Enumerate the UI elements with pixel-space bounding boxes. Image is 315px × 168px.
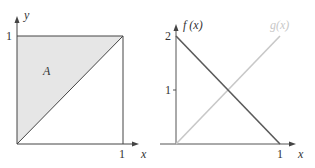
y-axis-arrow-icon xyxy=(174,24,179,31)
y-axis-arrow-icon xyxy=(15,16,20,23)
left-chart: 1 y 1 x A xyxy=(6,8,147,161)
g-label: g(x) xyxy=(270,18,289,32)
x-axis-arrow-icon xyxy=(132,142,139,147)
figure: 1 y 1 x A 2 1 1 x f (x) g(x) xyxy=(0,0,315,168)
x-axis-arrow-icon xyxy=(289,142,296,147)
y-axis-label: y xyxy=(23,8,30,22)
y-tick-1: 1 xyxy=(6,29,12,43)
region-a-label: A xyxy=(42,64,51,78)
x-axis-label: x xyxy=(297,147,304,161)
x-axis-label: x xyxy=(140,147,147,161)
right-chart: 2 1 1 x f (x) g(x) xyxy=(160,18,304,161)
x-tick-1: 1 xyxy=(277,147,283,161)
y-tick-2: 2 xyxy=(165,29,171,43)
x-tick-1: 1 xyxy=(119,147,125,161)
f-label: f (x) xyxy=(183,18,203,32)
y-tick-1: 1 xyxy=(165,83,171,97)
